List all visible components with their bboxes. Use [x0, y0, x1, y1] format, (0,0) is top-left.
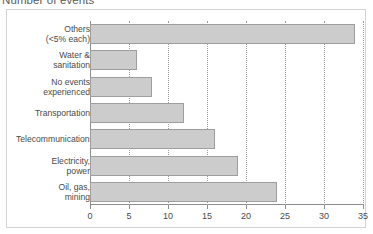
x-axis-tick	[363, 205, 364, 209]
x-axis-tick-label: 25	[280, 211, 290, 221]
x-axis-tick	[129, 205, 130, 209]
x-axis-tick	[168, 205, 169, 209]
x-axis-line	[90, 204, 363, 205]
category-label: Water & sanitation	[16, 50, 90, 70]
category-label: No events experienced	[16, 77, 90, 97]
x-axis-tick-label: 15	[202, 211, 212, 221]
gridline	[363, 21, 364, 205]
gridline	[324, 21, 325, 205]
gridline	[246, 21, 247, 205]
chart-frame: Others (<5% each)Water & sanitationNo ev…	[6, 9, 366, 228]
x-axis-tick	[207, 205, 208, 209]
bar[interactable]	[90, 103, 184, 123]
x-axis-tick	[285, 205, 286, 209]
x-axis-tick	[246, 205, 247, 209]
bar[interactable]	[90, 156, 238, 176]
x-axis-tick-label: 20	[241, 211, 251, 221]
x-axis-tick-label: 35	[358, 211, 368, 221]
x-axis-tick-label: 10	[163, 211, 173, 221]
category-label: Transportation	[16, 108, 90, 118]
category-axis-labels: Others (<5% each)Water & sanitationNo ev…	[13, 21, 90, 205]
category-label: Telecommunications	[16, 134, 90, 144]
page-title: Number of events	[2, 0, 94, 6]
x-axis-tick-label: 5	[126, 211, 131, 221]
bar[interactable]	[90, 129, 215, 149]
x-axis-tick	[90, 205, 91, 209]
x-axis-tick	[324, 205, 325, 209]
x-axis-tick-label: 30	[319, 211, 329, 221]
category-label: Electricity, power	[16, 156, 90, 176]
plot-area: 05101520253035	[90, 21, 363, 205]
bar[interactable]	[90, 182, 277, 202]
x-axis-tick-label: 0	[87, 211, 92, 221]
bar[interactable]	[90, 24, 355, 44]
category-label: Others (<5% each)	[16, 24, 90, 44]
chart-page: Number of events Others (<5% each)Water …	[0, 0, 373, 234]
bar[interactable]	[90, 77, 152, 97]
bar[interactable]	[90, 50, 137, 70]
gridline	[285, 21, 286, 205]
gridline	[207, 21, 208, 205]
category-label: Oil, gas, mining	[16, 182, 90, 202]
